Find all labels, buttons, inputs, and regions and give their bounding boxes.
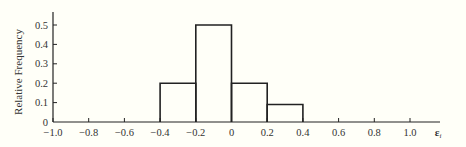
x-tick-label: −0.4: [151, 127, 171, 138]
chart-canvas: −1.0−0.8−0.6−0.4−0.200.20.40.60.81.0 00.…: [0, 0, 466, 147]
y-tick-label: 0.4: [35, 39, 49, 50]
x-tick-label: −0.2: [186, 127, 205, 138]
x-tick-label: −0.8: [79, 127, 98, 138]
x-axis-label-subscript: i: [439, 132, 441, 140]
histogram-bar: [196, 25, 232, 122]
x-tick-label: 0.8: [368, 127, 381, 138]
x-tick-label: 0: [229, 127, 234, 138]
y-axis-ticks: 00.10.20.30.40.5: [35, 20, 57, 128]
x-tick-label: −1.0: [43, 127, 62, 138]
y-tick-label: 0.3: [35, 58, 48, 69]
y-tick-label: 0.1: [35, 97, 48, 108]
x-tick-label: 0.2: [261, 127, 274, 138]
histogram-bar: [267, 105, 303, 122]
x-tick-label: −0.6: [115, 127, 134, 138]
histogram-chart: −1.0−0.8−0.6−0.4−0.200.20.40.60.81.0 00.…: [0, 0, 466, 147]
histogram-bar: [232, 83, 268, 122]
axes: [53, 12, 440, 122]
y-tick-label: 0.2: [35, 78, 48, 89]
y-tick-label: 0.5: [35, 20, 48, 31]
x-tick-label: 1.0: [403, 127, 416, 138]
histogram-bar: [160, 83, 196, 122]
x-tick-label: 0.6: [332, 127, 345, 138]
x-axis-ticks: −1.0−0.8−0.6−0.4−0.200.20.40.60.81.0: [43, 118, 416, 138]
y-axis-label: Relative Frequency: [12, 29, 24, 115]
x-axis-label: εi: [435, 126, 442, 140]
x-tick-label: 0.4: [296, 127, 310, 138]
histogram-bars: [160, 25, 303, 122]
y-tick-label: 0: [43, 117, 48, 128]
